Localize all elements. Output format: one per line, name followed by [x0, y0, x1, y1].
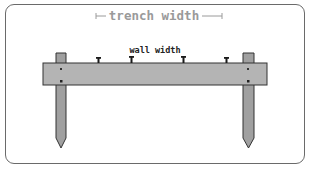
- batter-board: [43, 63, 267, 85]
- nail-icon: [129, 56, 134, 63]
- batter-board-diagram: trench width wall width: [0, 0, 310, 169]
- trench-width-label: trench width: [109, 8, 199, 23]
- wall-width-label: wall width: [129, 45, 180, 55]
- nail-icon: [181, 56, 186, 63]
- nail-icon: [96, 57, 101, 63]
- nail-icon: [224, 57, 229, 63]
